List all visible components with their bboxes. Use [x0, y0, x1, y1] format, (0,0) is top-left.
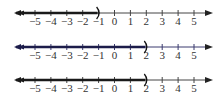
tick-label: 2: [144, 15, 150, 27]
tick-label: 0: [112, 49, 118, 61]
tick-label: 4: [175, 15, 181, 27]
tick-label: 4: [175, 82, 181, 94]
tick-label: 1: [128, 15, 134, 27]
tick-label: 5: [191, 49, 197, 61]
tick-label: −5: [29, 49, 41, 61]
tick-label: 4: [175, 49, 181, 61]
tick-label: 5: [191, 15, 197, 27]
tick-label: 0: [112, 82, 118, 94]
tick-label: 3: [159, 15, 165, 27]
tick-label: −3: [61, 82, 73, 94]
tick-label: −2: [77, 82, 89, 94]
tick-label: −5: [29, 15, 41, 27]
tick-label: −4: [45, 82, 57, 94]
tick-label: −5: [29, 82, 41, 94]
tick-label: 1: [128, 82, 134, 94]
tick-label: −3: [61, 15, 73, 27]
tick-label: −4: [45, 15, 57, 27]
tick-label: −1: [93, 49, 105, 61]
right-arrow-icon: [205, 44, 213, 50]
tick-label: 3: [159, 49, 165, 61]
tick-label: −2: [77, 49, 89, 61]
right-arrow-icon: [205, 77, 213, 83]
number-lines-figure: −5−4−3−2−1012345−5−4−3−2−1012345−5−4−3−2…: [0, 0, 215, 100]
tick-label: −3: [61, 49, 73, 61]
number-line-3: −5−4−3−2−1012345: [14, 74, 213, 94]
number-line-1: −5−4−3−2−1012345: [14, 7, 213, 27]
right-arrow-icon: [205, 10, 213, 16]
tick-label: −2: [77, 15, 89, 27]
tick-label: −1: [93, 82, 105, 94]
tick-label: 1: [128, 49, 134, 61]
tick-label: 5: [191, 82, 197, 94]
tick-label: 3: [159, 82, 165, 94]
tick-label: −4: [45, 49, 57, 61]
tick-label: 0: [112, 15, 118, 27]
number-line-2: −5−4−3−2−1012345: [14, 41, 213, 61]
